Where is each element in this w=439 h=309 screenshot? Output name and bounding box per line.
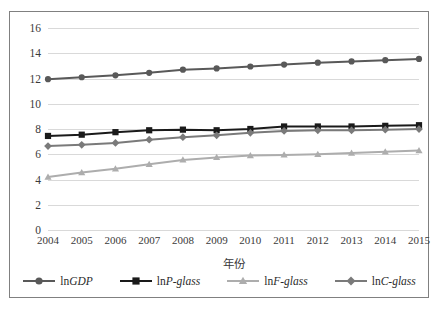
circle-marker [348,58,354,64]
x-axis-tick-label: 2011 [273,234,295,246]
legend-label: lnF-glass [264,275,307,287]
circle-marker [247,63,253,69]
series-lnGDP [45,56,422,82]
circle-marker [281,62,287,68]
chart-legend: lnGDPlnP-glasslnF-glasslnC-glass [10,274,428,288]
plot-area: 0246810121416 20042005200620072008200920… [48,28,419,230]
y-axis-tick-label: 6 [35,148,41,160]
x-axis-tick-label: 2009 [206,234,228,246]
y-axis-tick-label: 14 [30,47,42,59]
square-marker [45,133,51,139]
circle-marker [382,57,388,63]
square-marker [146,127,152,133]
circle-marker [315,60,321,66]
series-line [48,59,419,79]
y-axis-tick-label: 10 [30,98,42,110]
legend-item-lnGDP[interactable]: lnGDP [22,274,93,288]
chart-figure: 0246810121416 20042005200620072008200920… [9,11,429,298]
circle-marker [45,76,51,82]
x-axis-tick-label: 2015 [408,234,430,246]
diamond-marker [346,277,355,286]
series-lines [48,28,419,230]
square-marker [180,127,186,133]
x-axis-tick-label: 2013 [341,234,363,246]
series-line [48,150,419,177]
circle-marker [214,65,220,71]
y-axis-tick-label: 8 [35,123,41,135]
x-axis-tick-label: 2007 [138,234,160,246]
circle-marker [416,56,422,62]
series-lnF-glass [44,147,422,180]
x-axis-tick-label: 2008 [172,234,194,246]
x-axis-tick-label: 2004 [37,234,59,246]
legend-item-lnC-glass[interactable]: lnC-glass [334,274,416,288]
legend-item-lnF-glass[interactable]: lnF-glass [226,274,307,288]
diamond-marker [78,141,86,149]
circle-marker [146,70,152,76]
diamond-marker [112,139,120,147]
circle-marker [180,67,186,73]
legend-swatch-square [119,274,153,288]
legend-swatch-diamond [334,274,368,288]
x-axis-tick-label: 2012 [307,234,329,246]
square-marker [79,132,85,138]
diamond-marker [179,133,187,141]
diamond-marker [145,136,153,144]
circle-marker [36,277,43,284]
y-axis-tick-label: 16 [30,22,42,34]
square-marker [112,129,118,135]
legend-label: lnP-glass [157,275,200,287]
circle-marker [79,74,85,80]
legend-swatch-circle [22,274,56,288]
square-marker [132,277,139,284]
x-axis-tick-label: 2014 [374,234,396,246]
x-axis-tick-label: 2006 [104,234,126,246]
legend-label: lnC-glass [372,275,416,287]
legend-item-lnP-glass[interactable]: lnP-glass [119,274,200,288]
x-axis-title: 年份 [48,255,419,271]
gridline [48,230,419,231]
legend-label: lnGDP [60,275,93,287]
x-axis-tick-label: 2005 [71,234,93,246]
y-axis-tick-label: 2 [35,199,41,211]
y-axis-tick-label: 12 [30,73,42,85]
x-axis-tick-label: 2010 [239,234,261,246]
circle-marker [112,72,118,78]
legend-swatch-triangle [226,274,260,288]
series-line [48,129,419,146]
diamond-marker [44,142,52,150]
y-axis-tick-label: 4 [35,174,41,186]
